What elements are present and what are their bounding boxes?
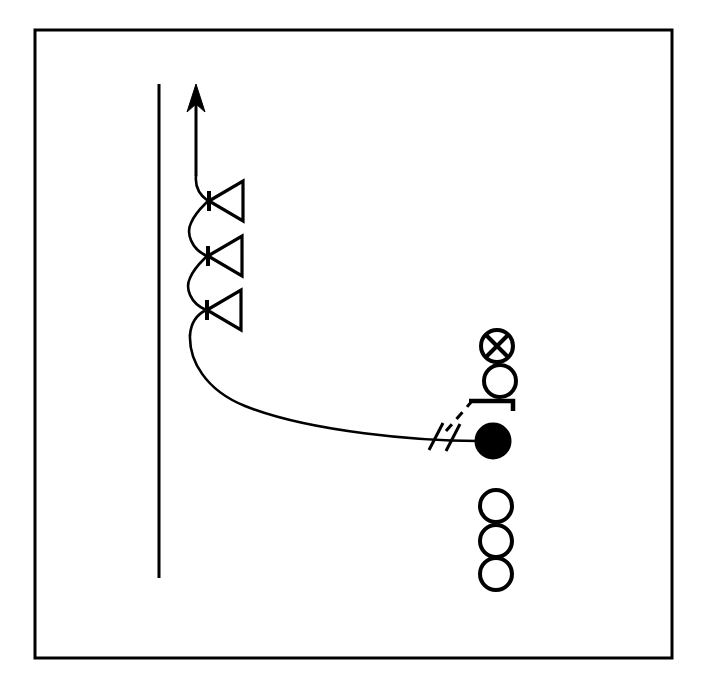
play-diagram-stage: Football Play Diagram American football … [0,0,708,691]
player-marker-open-circle-hook[interactable] [484,365,516,397]
player-marker-lineman-3[interactable] [480,558,512,590]
wave-marker-3-triangle-icon [207,290,241,330]
route-hash-mark-1 [429,423,443,450]
player-marker-x-circle[interactable] [481,330,513,362]
blocking-assignment-hook-icon [469,401,513,411]
wave-marker-group [207,181,243,330]
diagram-border [35,30,672,658]
player-marker-ball-carrier[interactable] [476,424,510,458]
primary-route-sweep [190,335,478,441]
player-marker-lineman-2[interactable] [480,525,512,557]
wave-marker-2 [208,236,242,276]
wave-marker-3 [207,290,241,330]
wave-marker-1-triangle-icon [209,181,243,221]
wave-marker-1 [209,181,243,221]
play-diagram-canvas [0,0,708,691]
player-marker-lineman-1[interactable] [480,490,512,522]
route-hash-marks [429,423,460,451]
player-marker-group [476,330,516,590]
wave-marker-2-triangle-icon [208,236,242,276]
